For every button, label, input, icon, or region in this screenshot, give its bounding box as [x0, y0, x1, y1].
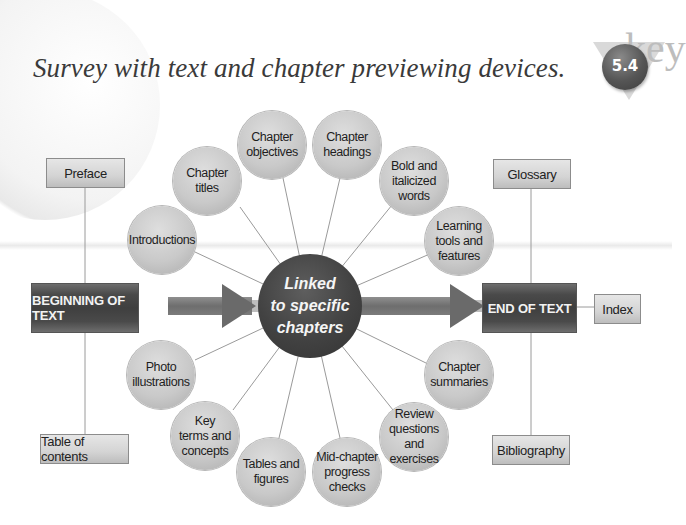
left-arrow-head-icon — [222, 284, 256, 328]
index-box: Index — [594, 294, 641, 324]
table-of-contents-box: Table of contents — [40, 434, 129, 464]
right-arrow-head-icon — [450, 284, 484, 328]
bibliography-box: Bibliography — [492, 435, 570, 465]
circle-review-questions: Review questions and exercises — [380, 403, 448, 471]
right-arrow-shaft — [350, 297, 455, 315]
circle-mid-chapter-checks: Mid-chapter progress checks — [313, 438, 381, 506]
circle-chapter-objectives: Chapter objectives — [238, 111, 306, 179]
circle-tables-figures: Tables and figures — [237, 438, 305, 506]
beginning-of-text-box: BEGINNING OF TEXT — [31, 283, 139, 333]
glossary-box: Glossary — [493, 159, 571, 189]
central-hub: Linked to specific chapters — [258, 254, 362, 358]
circle-key-terms: Key terms and concepts — [171, 402, 239, 470]
preface-box: Preface — [46, 158, 125, 188]
circle-chapter-summaries: Chapter summaries — [425, 341, 493, 409]
circle-learning-tools: Learning tools and features — [425, 207, 493, 275]
circle-photo-illustrations: Photo illustrations — [127, 341, 195, 409]
circle-chapter-headings: Chapter headings — [313, 111, 381, 179]
circle-chapter-titles: Chapter titles — [173, 147, 241, 215]
circle-bold-italicized-words: Bold and italicized words — [380, 147, 448, 215]
circle-introductions: Introductions — [128, 206, 196, 274]
end-of-text-box: END OF TEXT — [482, 283, 577, 333]
